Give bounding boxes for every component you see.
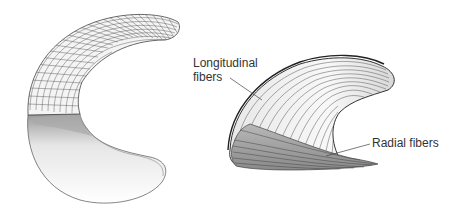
longitudinal-fibers-label: Longitudinal fibers <box>193 56 258 84</box>
longitudinal-label-line2: fibers <box>193 70 258 84</box>
diagram-figure <box>0 0 452 210</box>
left-crescent <box>28 13 180 203</box>
radial-fibers-label: Radial fibers <box>372 136 439 150</box>
longitudinal-label-line1: Longitudinal <box>193 56 258 70</box>
